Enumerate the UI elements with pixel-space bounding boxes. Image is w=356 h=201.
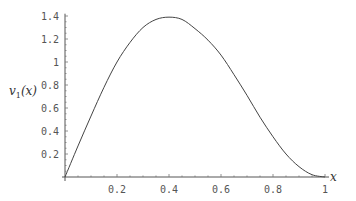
y-tick-label: 0.4 — [41, 126, 59, 137]
x-tick-label: 0.2 — [108, 184, 126, 195]
line-chart: 0.20.40.60.811.21.4 0.20.40.60.81 x v1(x… — [0, 0, 356, 201]
x-tick-label: 0.8 — [264, 184, 282, 195]
y-tick-label: 0.2 — [41, 149, 59, 160]
x-tick-label: 1 — [322, 184, 328, 195]
y-tick-label: 0.8 — [41, 80, 59, 91]
y-tick-label: 0.6 — [41, 103, 59, 114]
y-tick-label: 1.4 — [41, 11, 59, 22]
x-axis: 0.20.40.60.81 — [62, 174, 329, 195]
y-axis-label: v1(x) — [9, 84, 37, 100]
y-tick-label: 1.2 — [41, 34, 59, 45]
y-tick-label: 1 — [53, 57, 59, 68]
x-tick-label: 0.4 — [160, 184, 178, 195]
v1-curve — [65, 17, 325, 177]
x-tick-label: 0.6 — [212, 184, 230, 195]
y-axis: 0.20.40.60.811.21.4 — [41, 11, 68, 182]
x-axis-label: x — [330, 170, 337, 184]
